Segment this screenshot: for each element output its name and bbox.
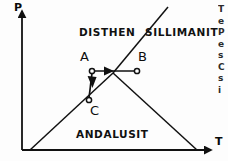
margin-text-line: s — [218, 73, 228, 85]
field-label-disthen: DISTHEN — [79, 26, 135, 38]
field-label-andalusit: ANDALUSIT — [76, 128, 149, 140]
point-label-c: C — [90, 103, 99, 118]
margin-text-line: T — [218, 4, 228, 16]
temperature-axis-label: T — [215, 135, 223, 148]
margin-text-line: e — [218, 39, 228, 51]
point-marker-a — [89, 68, 94, 73]
cropped-margin-text: TePesCsi — [218, 4, 228, 96]
path-a-to-c-arrowhead — [88, 76, 97, 88]
pressure-axis-label: P — [14, 1, 22, 14]
point-marker-b — [134, 68, 139, 73]
point-marker-c — [86, 97, 91, 102]
field-label-sillimanit: SILLIMANIT — [145, 26, 218, 38]
margin-text-line: P — [218, 27, 228, 39]
margin-text-line: s — [218, 50, 228, 62]
phase-diagram-figure: P T DISTHEN SILLIMANIT ANDALUSIT A B C T… — [0, 0, 228, 161]
point-label-a: A — [80, 49, 89, 64]
margin-text-line: C — [218, 62, 228, 74]
margin-text-line: i — [218, 85, 228, 97]
margin-text-line: e — [218, 16, 228, 28]
point-label-b: B — [138, 49, 147, 64]
